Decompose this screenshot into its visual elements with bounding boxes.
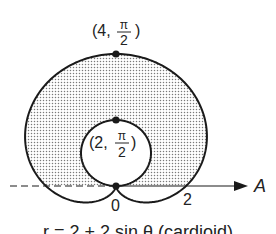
top-point-label: (4, π 2 ): [92, 18, 140, 48]
cardioid-diagram: (4, π 2 ) (2, π 2 ) 0 2 A r = 2 + 2 sin …: [0, 0, 276, 234]
svg-text:π: π: [118, 129, 126, 143]
top-point-dot: [112, 50, 119, 57]
inner-circle-curve: [81, 120, 151, 186]
inner-point-label: (2, π 2 ): [89, 129, 136, 160]
svg-text:2: 2: [118, 144, 126, 160]
polar-axis-label: A: [253, 176, 266, 196]
axis-arrow-icon: [234, 181, 248, 191]
svg-text:): ): [135, 22, 140, 39]
svg-text:2: 2: [120, 32, 128, 48]
svg-text:π: π: [120, 18, 128, 32]
inner-point-dot: [112, 116, 119, 123]
curve-equation-caption: r = 2 + 2 sin θ (cardioid): [43, 222, 233, 234]
axis-tick-label: 2: [183, 191, 192, 208]
svg-text:(4,: (4,: [92, 22, 111, 39]
origin-label: 0: [111, 197, 120, 214]
svg-text:): ): [131, 134, 136, 151]
svg-text:(2,: (2,: [89, 134, 108, 151]
origin-dot: [112, 182, 119, 189]
